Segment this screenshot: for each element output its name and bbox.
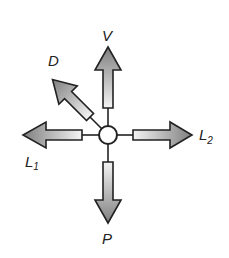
label-v: V — [102, 27, 114, 44]
arrow-p-icon — [95, 162, 121, 223]
center-point-icon — [99, 126, 117, 144]
label-l2: L2 — [199, 126, 213, 146]
label-p: P — [102, 230, 112, 247]
label-l1: L1 — [25, 153, 39, 172]
force-diagram: V D L1 L2 P — [0, 0, 229, 258]
arrow-v-icon — [95, 47, 121, 108]
label-d: D — [48, 52, 59, 69]
arrow-l2-icon — [133, 122, 192, 148]
arrow-l1-icon — [23, 122, 82, 148]
